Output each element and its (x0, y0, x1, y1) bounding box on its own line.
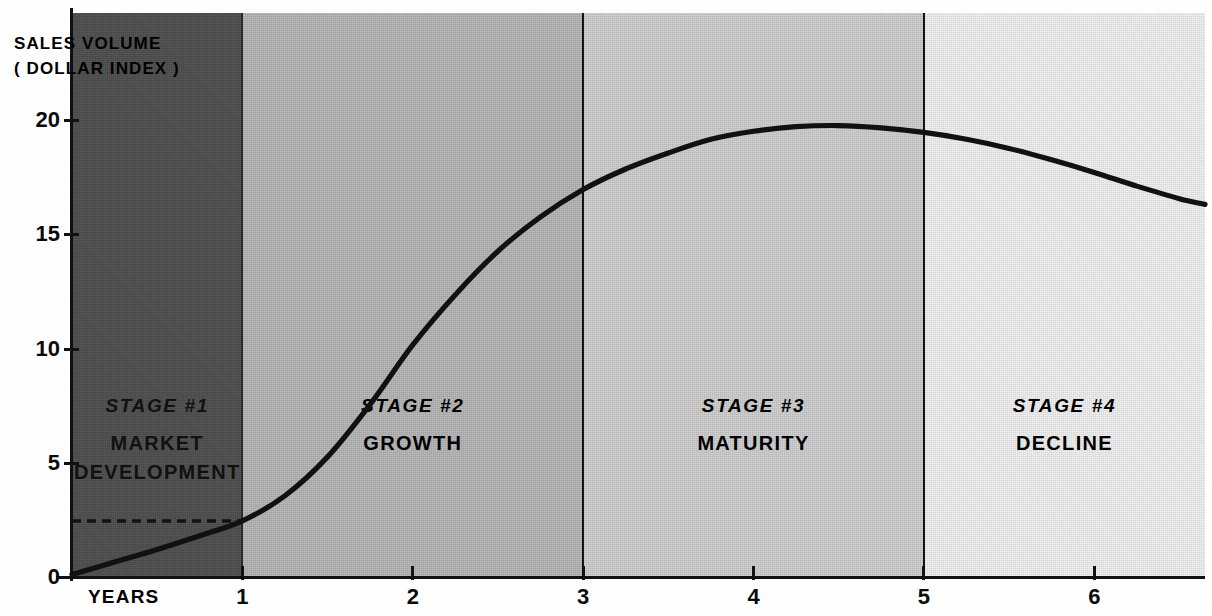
y-tick-label-20: 20 (16, 107, 60, 133)
y-axis-title-line2: ( DOLLAR INDEX ) (14, 59, 180, 78)
x-tick-label-1: 1 (222, 584, 262, 610)
chart-canvas: 20 15 10 5 0 1 2 3 4 5 6 SALES VOLUME( D… (0, 0, 1212, 616)
stage-band-1 (72, 13, 242, 578)
y-axis-title: SALES VOLUME( DOLLAR INDEX ) (14, 32, 180, 81)
y-tick-label-0: 0 (16, 564, 60, 590)
x-tick-3 (582, 566, 585, 580)
stage-label-4: STAGE #4 DECLINE (924, 392, 1205, 458)
stage-label-3-number: STAGE #3 (583, 392, 924, 420)
stage-label-4-line1: DECLINE (924, 429, 1205, 458)
x-tick-label-2: 2 (393, 584, 433, 610)
y-tick-label-5: 5 (16, 450, 60, 476)
stage-label-2-line1: GROWTH (242, 429, 583, 458)
x-tick-6 (1093, 566, 1096, 580)
y-tick-label-15: 15 (16, 221, 60, 247)
stage-band-2 (242, 13, 583, 578)
stage-label-3-line1: MATURITY (583, 429, 924, 458)
x-tick-2 (411, 566, 414, 580)
stage-label-1: STAGE #1 MARKET DEVELOPMENT (72, 392, 242, 487)
stage-label-3: STAGE #3 MATURITY (583, 392, 924, 458)
stage-divider-2-3 (582, 13, 584, 578)
x-tick-1 (241, 566, 244, 580)
stage-label-1-line2: DEVELOPMENT (72, 458, 242, 487)
y-tick-10 (64, 348, 79, 351)
stage-label-2-number: STAGE #2 (242, 392, 583, 420)
y-tick-label-10: 10 (16, 336, 60, 362)
stage-label-4-number: STAGE #4 (924, 392, 1205, 420)
stage-divider-1-2 (241, 13, 243, 578)
y-axis-line (70, 8, 73, 581)
stage-band-3 (583, 13, 924, 578)
x-tick-4 (752, 566, 755, 580)
stage-label-1-line1: MARKET (72, 429, 242, 458)
y-axis-title-line1: SALES VOLUME (14, 34, 161, 53)
x-tick-label-4: 4 (734, 584, 774, 610)
stage-label-1-number: STAGE #1 (72, 392, 242, 420)
stage-band-4 (924, 13, 1205, 578)
x-tick-5 (922, 566, 925, 580)
x-tick-label-3: 3 (563, 584, 603, 610)
y-tick-0 (64, 576, 79, 579)
x-tick-label-5: 5 (904, 584, 944, 610)
x-axis-title: YEARS (88, 586, 159, 608)
stage-divider-3-4 (923, 13, 925, 578)
stage-label-2: STAGE #2 GROWTH (242, 392, 583, 458)
x-axis-line (56, 576, 1205, 579)
y-tick-15 (64, 233, 79, 236)
y-tick-20 (64, 119, 79, 122)
x-tick-label-6: 6 (1074, 584, 1114, 610)
